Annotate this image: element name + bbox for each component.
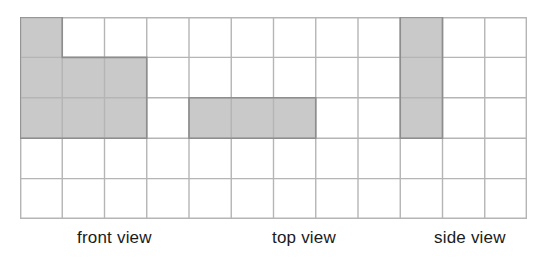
top-view-label: top view: [272, 228, 336, 248]
grid-container: [20, 17, 527, 219]
grid-and-shapes-svg: [20, 17, 527, 219]
view-labels-row: front view top view side view: [0, 228, 544, 258]
orthographic-views-figure: front view top view side view: [0, 0, 544, 264]
side-view-shape-fill: [400, 17, 442, 138]
front-view-shape-fill: [20, 17, 147, 138]
side-view-label: side view: [434, 228, 506, 248]
top-view-shape-fill: [189, 98, 316, 138]
front-view-label: front view: [77, 228, 152, 248]
